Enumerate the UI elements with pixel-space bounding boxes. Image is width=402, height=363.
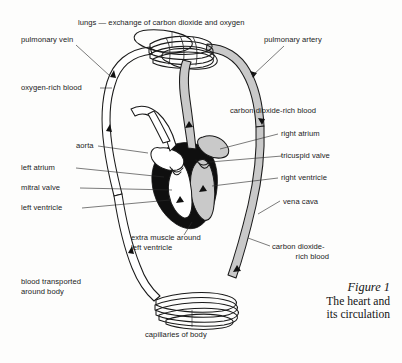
- vena-cava-vessel: [228, 126, 264, 278]
- label-co2-rich-blood-low-line1: carbon dioxide-: [272, 242, 325, 252]
- label-capillaries-of-body: capillaries of body: [145, 330, 207, 340]
- label-blood-transported-line2: around body: [21, 287, 64, 297]
- figure-caption-line1: The heart and: [270, 295, 390, 309]
- label-mitral-valve: mitral valve: [21, 183, 60, 193]
- heart: [131, 60, 229, 229]
- figure-caption: Figure 1 The heart and its circulation: [270, 281, 390, 322]
- pulmonary-vein-vessel: [102, 47, 152, 196]
- body-capillaries: [155, 293, 238, 330]
- label-oxygen-rich-blood: oxygen-rich blood: [21, 83, 82, 93]
- label-extra-muscle-line1: extra muscle around: [131, 233, 201, 243]
- figure-root: .out{fill:none;stroke:#1a1a1a;stroke-wid…: [0, 0, 402, 363]
- label-tricuspid-valve: tricuspid valve: [281, 151, 330, 161]
- label-pulmonary-vein: pulmonary vein: [21, 35, 73, 45]
- pulmonary-trunk: [179, 60, 196, 149]
- label-right-atrium: right atrium: [281, 129, 320, 139]
- label-left-atrium: left atrium: [21, 163, 55, 173]
- label-lungs: lungs — exchange of carbon dioxide and o…: [78, 18, 244, 28]
- label-extra-muscle-line2: left ventricle: [131, 243, 172, 253]
- label-left-ventricle: left ventricle: [21, 203, 62, 213]
- label-right-ventricle: right ventricle: [281, 173, 327, 183]
- label-blood-transported-line1: blood transported: [21, 277, 81, 287]
- label-pulmonary-artery: pulmonary artery: [264, 35, 322, 45]
- label-carbon-dioxide-rich-blood: carbon dioxide-rich blood: [230, 106, 316, 116]
- label-vena-cava: vena cava: [283, 197, 318, 207]
- figure-number: Figure 1: [270, 281, 390, 295]
- figure-caption-line2: its circulation: [270, 308, 390, 322]
- label-aorta: aorta: [76, 141, 94, 151]
- label-co2-rich-blood-low-line2: rich blood: [272, 252, 329, 262]
